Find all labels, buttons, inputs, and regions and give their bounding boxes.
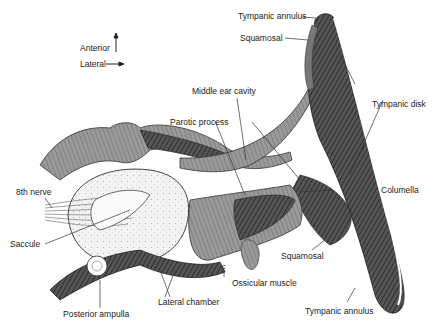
tympanic-column	[308, 14, 404, 313]
c-marker-label: c	[222, 263, 226, 270]
tympanic-annulus-top-label: Tympanic annulus	[238, 12, 307, 21]
lateral-chamber-label: Lateral chamber	[158, 298, 219, 307]
tympanic-disk-label: Tympanic disk	[372, 100, 426, 109]
anatomy-figure	[0, 0, 440, 329]
ossicular-muscle-label: Ossicular muscle	[232, 279, 297, 288]
squamosal-top-label: Squamosal	[240, 34, 283, 43]
tympanic-annulus-bottom-label: Tympanic annulus	[305, 307, 374, 316]
posterior-ampulla-label: Posterior ampulla	[63, 310, 129, 319]
eighth-nerve-label: 8th nerve	[16, 188, 51, 197]
squamosal-bottom-label: Squamosal	[281, 252, 324, 261]
ossicular-muscle-shape	[241, 240, 259, 270]
columella-label: Columella	[381, 186, 419, 195]
middle-ear-cavity-label: Middle ear cavity	[192, 87, 256, 96]
posterior-ampulla-shape	[87, 256, 107, 276]
parotic-process-label: Parotic process	[170, 118, 229, 127]
lateral-label: Lateral	[80, 60, 106, 69]
anterior-label: Anterior	[80, 44, 110, 53]
saccule-label: Saccule	[10, 240, 40, 249]
